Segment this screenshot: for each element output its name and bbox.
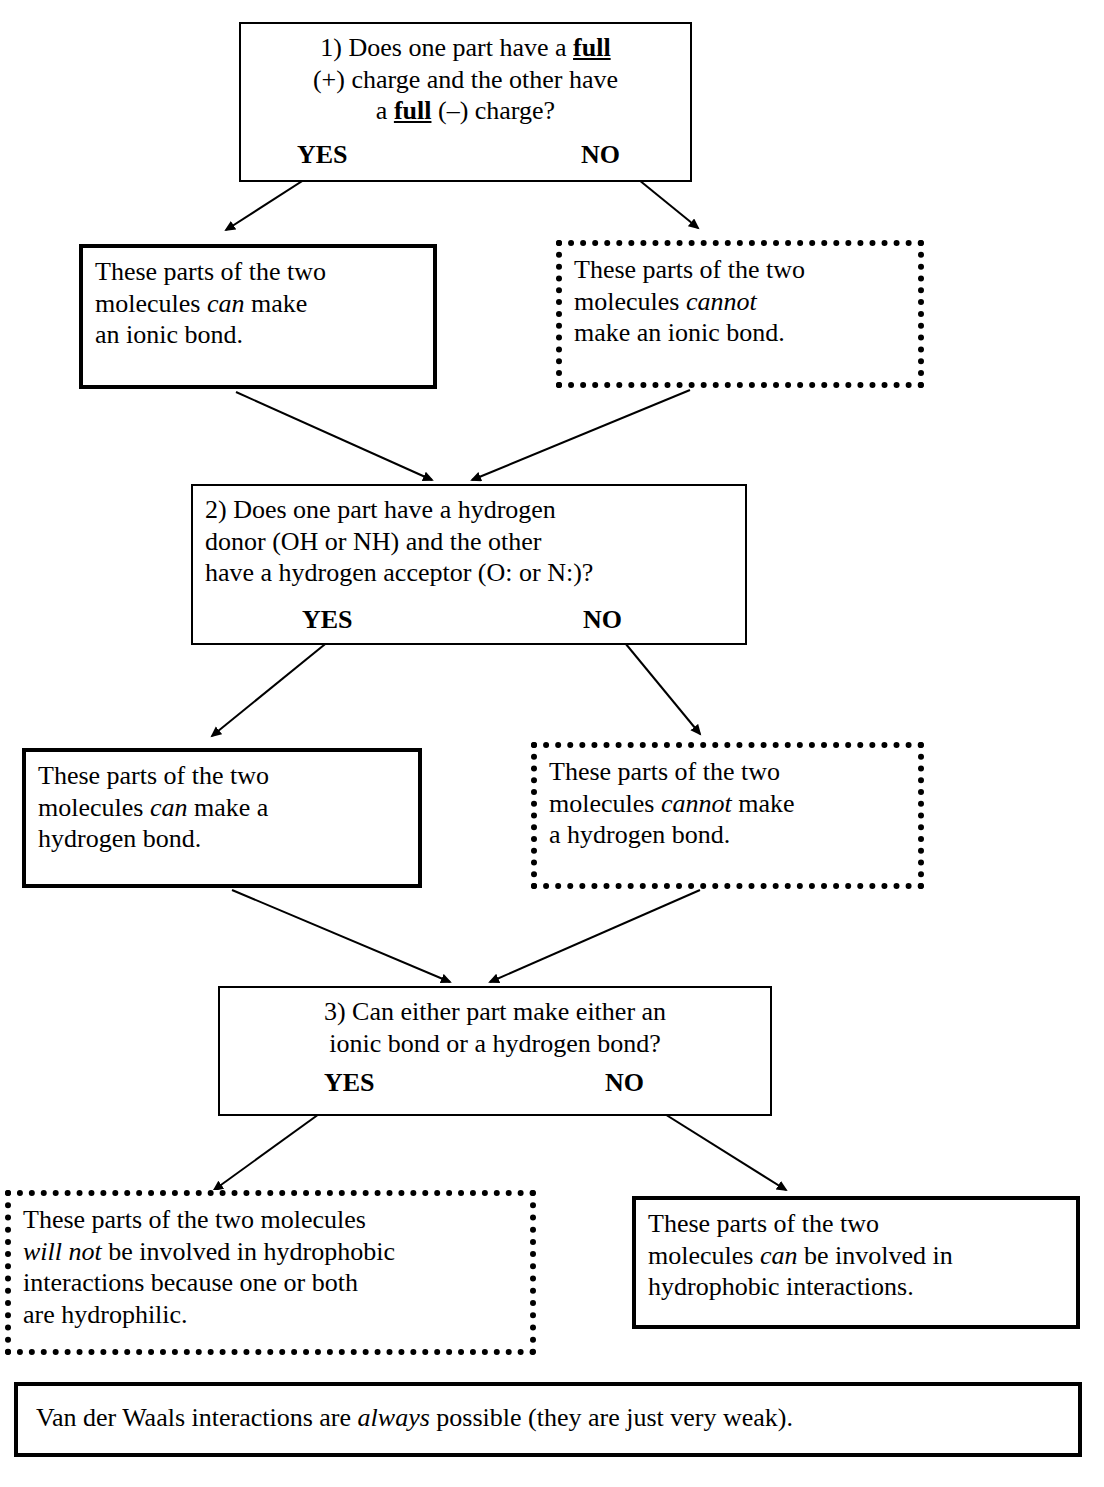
question-2-text: 2) Does one part have a hydrogen donor (… (193, 486, 745, 597)
hbond-no-line2b: make (732, 789, 795, 818)
ionic-yes-line1: These parts of the two (95, 257, 326, 286)
hydrogen-bond-yes-box: These parts of the two molecules can mak… (22, 748, 422, 888)
vdw-line1: Van der Waals interactions are (36, 1403, 358, 1432)
ionic-yes-emph: can (207, 289, 245, 318)
ionic-yes-line2b: make (244, 289, 307, 318)
q3-yes-label: YES (324, 1068, 375, 1098)
q3-no-label: NO (605, 1068, 644, 1098)
hydrophobic-no-box: These parts of the two molecules will no… (5, 1190, 536, 1355)
ionic-no-line1: These parts of the two (574, 255, 805, 284)
ionic-bond-no-box: These parts of the two molecules cannot … (556, 240, 924, 388)
vdw-line2: possible (they are just very weak). (430, 1403, 793, 1432)
van-der-waals-box: Van der Waals interactions are always po… (14, 1382, 1082, 1457)
question-1-text: 1) Does one part have a full (+) charge … (241, 24, 690, 135)
vdw-emph: always (358, 1403, 430, 1432)
q2-yes-label: YES (302, 605, 353, 635)
q1-emph-full-1: full (573, 33, 611, 62)
hydrophobic-no-line4: are hydrophilic. (23, 1300, 188, 1329)
hydrophobic-yes-line3: hydrophobic interactions. (648, 1272, 914, 1301)
question-3-text: 3) Can either part make either an ionic … (220, 988, 770, 1067)
hydrophobic-yes-text: These parts of the two molecules can be … (636, 1200, 1076, 1311)
hbond-yes-line3: hydrogen bond. (38, 824, 201, 853)
q1-yes-label: YES (297, 140, 348, 170)
hydrophobic-yes-line1: These parts of the two (648, 1209, 879, 1238)
hydrophobic-no-line1: These parts of the two molecules (23, 1205, 366, 1234)
edge-ionicno-q2 (472, 390, 690, 480)
ionic-yes-line3: an ionic bond. (95, 320, 243, 349)
q1-no-label: NO (581, 140, 620, 170)
edge-hbondyes-q3 (232, 890, 450, 982)
q2-line1: 2) Does one part have a hydrogen (205, 495, 556, 524)
ionic-bond-yes-text: These parts of the two molecules can mak… (83, 248, 433, 359)
ionic-bond-no-text: These parts of the two molecules cannot … (562, 246, 918, 357)
hydrophobic-no-text: These parts of the two molecules will no… (11, 1196, 530, 1339)
hbond-no-line3: a hydrogen bond. (549, 820, 730, 849)
q3-line1: 3) Can either part make either an (324, 997, 666, 1026)
q2-no-label: NO (583, 605, 622, 635)
hbond-no-line2a: molecules (549, 789, 661, 818)
hbond-no-emph: cannot (661, 789, 732, 818)
van-der-waals-text: Van der Waals interactions are always po… (18, 1386, 1078, 1442)
ionic-no-line3: make an ionic bond. (574, 318, 785, 347)
hbond-yes-emph: can (150, 793, 188, 822)
q2-line2: donor (OH or NH) and the other (205, 527, 541, 556)
edge-q2-no (616, 632, 700, 734)
hydrophobic-no-line3: interactions because one or both (23, 1268, 358, 1297)
hydrogen-bond-no-box: These parts of the two molecules cannot … (531, 742, 924, 889)
q2-line3: have a hydrogen acceptor (O: or N:)? (205, 558, 593, 587)
hydrophobic-yes-line2a: molecules (648, 1241, 760, 1270)
q1-line3a: a (376, 96, 394, 125)
hydrogen-bond-yes-text: These parts of the two molecules can mak… (26, 752, 418, 863)
diagram-canvas: 1) Does one part have a full (+) charge … (0, 0, 1104, 1487)
q1-emph-full-2: full (394, 96, 432, 125)
question-2-box: 2) Does one part have a hydrogen donor (… (191, 484, 747, 645)
hydrophobic-yes-box: These parts of the two molecules can be … (632, 1196, 1080, 1329)
edge-ionicyes-q2 (236, 392, 432, 480)
edge-hbondno-q3 (490, 890, 700, 982)
hydrophobic-yes-emph: can (760, 1241, 798, 1270)
hbond-yes-line2a: molecules (38, 793, 150, 822)
hydrophobic-no-line2b: be involved in hydrophobic (102, 1237, 395, 1266)
ionic-no-emph: cannot (686, 287, 757, 316)
question-3-box: 3) Can either part make either an ionic … (218, 986, 772, 1116)
q1-line1: 1) Does one part have a (320, 33, 573, 62)
hbond-no-line1: These parts of the two (549, 757, 780, 786)
edge-q2-yes (212, 632, 340, 736)
hydrophobic-no-emph: will not (23, 1237, 102, 1266)
q3-line2: ionic bond or a hydrogen bond? (329, 1029, 660, 1058)
ionic-bond-yes-box: These parts of the two molecules can mak… (79, 244, 437, 389)
q1-line3b: (–) charge? (431, 96, 555, 125)
q1-line2: (+) charge and the other have (313, 65, 618, 94)
ionic-yes-line2a: molecules (95, 289, 207, 318)
hydrogen-bond-no-text: These parts of the two molecules cannot … (537, 748, 918, 859)
hbond-yes-line1: These parts of the two (38, 761, 269, 790)
ionic-no-line2a: molecules (574, 287, 686, 316)
hbond-yes-line2b: make a (187, 793, 268, 822)
hydrophobic-yes-line2b: be involved in (797, 1241, 952, 1270)
